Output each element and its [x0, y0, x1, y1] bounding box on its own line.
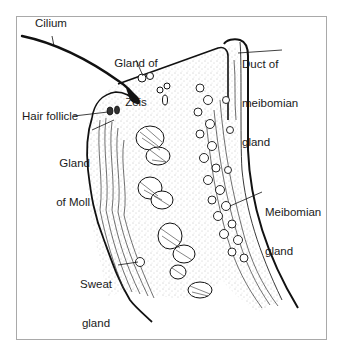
label-duct-line2: meibomian: [242, 97, 298, 110]
label-gland-of-moll: Gland of Moll: [36, 131, 90, 222]
label-meibomian-line2: gland: [265, 245, 321, 258]
label-sweat-line1: Sweat: [74, 278, 118, 291]
label-duct-line1: Duct of: [242, 58, 298, 71]
label-gland-of-zeis: Gland of Zeis: [106, 31, 166, 122]
label-moll-line1: Gland: [36, 157, 90, 170]
label-meibomian-line1: Meibomian: [265, 206, 321, 219]
label-gland-of-zeis-line1: Gland of: [106, 57, 166, 70]
label-moll-line2: of Moll: [36, 196, 90, 209]
label-sweat-line2: gland: [74, 317, 118, 330]
label-gland-of-zeis-line2: Zeis: [106, 96, 166, 109]
label-duct-line3: gland: [242, 136, 298, 149]
label-duct-of-meibomian-gland: Duct of meibomian gland: [242, 32, 298, 162]
label-meibomian-gland: Meibomian gland: [265, 180, 321, 271]
label-sweat-gland: Sweat gland: [74, 252, 118, 343]
label-hair-follicle: Hair follicle: [22, 110, 78, 123]
label-cilium: Cilium: [35, 17, 67, 30]
